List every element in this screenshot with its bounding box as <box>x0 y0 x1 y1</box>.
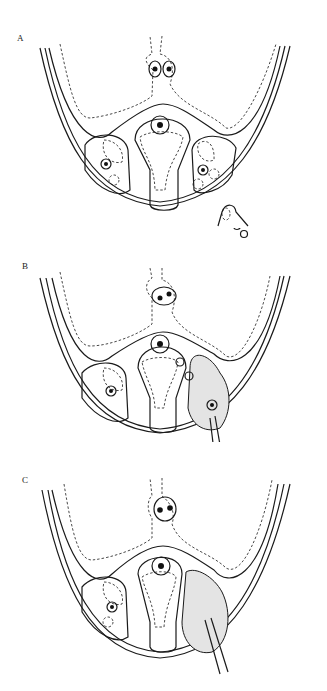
ovule-diagram-c <box>0 442 327 691</box>
panel-c: C <box>0 442 327 691</box>
panel-a: A <box>0 0 327 228</box>
panel-b: B <box>0 228 327 442</box>
ovule-diagram-b <box>0 228 327 442</box>
ovule-diagram-a <box>0 0 327 228</box>
